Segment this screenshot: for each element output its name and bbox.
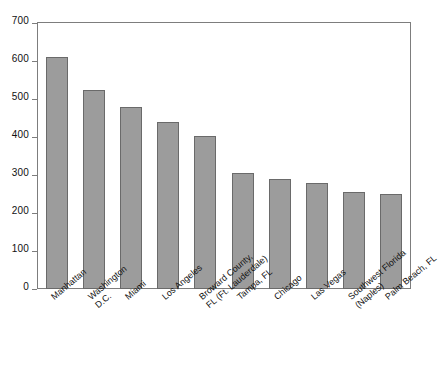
y-axis-tick-label: 400 xyxy=(12,130,29,140)
bars-layer xyxy=(38,23,410,289)
bar xyxy=(306,183,328,289)
y-axis-tick-label: 0 xyxy=(23,282,29,292)
y-axis-tick-mark xyxy=(32,175,37,176)
bar-slot xyxy=(373,23,410,289)
bar xyxy=(157,122,179,289)
y-axis-tick-mark xyxy=(32,213,37,214)
bar-slot xyxy=(112,23,149,289)
y-axis-tick-mark xyxy=(32,251,37,252)
y-axis: 0100200300400500600700 xyxy=(0,0,37,291)
y-axis-tick-label: 600 xyxy=(12,54,29,64)
bar xyxy=(46,57,68,289)
bar-slot xyxy=(150,23,187,289)
bar-slot xyxy=(298,23,335,289)
y-axis-tick-label: 100 xyxy=(12,244,29,254)
bar-slot xyxy=(75,23,112,289)
bar-slot xyxy=(38,23,75,289)
bar-slot xyxy=(336,23,373,289)
y-axis-tick-label: 200 xyxy=(12,206,29,216)
y-axis-tick-mark xyxy=(32,23,37,24)
y-axis-tick-mark xyxy=(32,289,37,290)
y-axis-tick-label: 300 xyxy=(12,168,29,178)
y-axis-tick-mark xyxy=(32,99,37,100)
bar-slot xyxy=(187,23,224,289)
y-axis-tick-mark xyxy=(32,137,37,138)
y-axis-tick-mark xyxy=(32,61,37,62)
x-axis-labels: ManhattanWashingtonD.C.MiamiLos AngelesB… xyxy=(38,291,410,369)
bar xyxy=(83,90,105,290)
y-axis-tick-label: 700 xyxy=(12,16,29,26)
bar-slot xyxy=(261,23,298,289)
bar xyxy=(120,107,142,289)
y-axis-tick-label: 500 xyxy=(12,92,29,102)
